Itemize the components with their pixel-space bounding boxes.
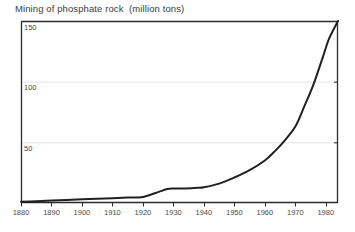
x-axis-tick-label-1940: 1940 bbox=[196, 208, 213, 217]
y-axis-tick-label-150: 150 bbox=[24, 23, 37, 32]
x-axis-tick-label-1950: 1950 bbox=[226, 208, 243, 217]
x-axis-tick-label-1980: 1980 bbox=[317, 208, 334, 217]
x-axis-tick-label-1900: 1900 bbox=[74, 208, 91, 217]
chart-container: Mining of phosphate rock (million tons) … bbox=[0, 0, 355, 232]
chart-canvas bbox=[0, 0, 355, 232]
data-line-phosphate-rock bbox=[21, 21, 338, 202]
x-axis-tick-label-1960: 1960 bbox=[257, 208, 274, 217]
x-axis-tick-label-1910: 1910 bbox=[104, 208, 121, 217]
y-axis-tick-label-50: 50 bbox=[24, 144, 32, 153]
x-axis-tick-label-1930: 1930 bbox=[165, 208, 182, 217]
x-axis-tick-label-1890: 1890 bbox=[43, 208, 60, 217]
y-axis-tick-label-100: 100 bbox=[24, 83, 37, 92]
x-axis-tick-label-1880: 1880 bbox=[13, 208, 30, 217]
x-axis-tick-label-1920: 1920 bbox=[135, 208, 152, 217]
x-axis-tick-label-1970: 1970 bbox=[287, 208, 304, 217]
